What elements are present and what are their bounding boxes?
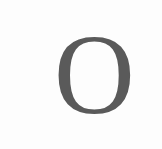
letter-glyph: O	[54, 18, 135, 132]
glyph-canvas: O	[0, 0, 162, 149]
